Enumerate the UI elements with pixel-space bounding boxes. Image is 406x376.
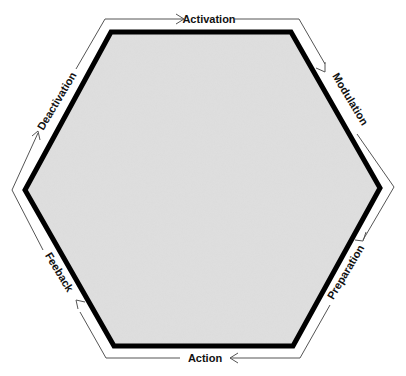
arrow-up-right-icon — [32, 131, 40, 140]
hexagon-texture — [29, 35, 376, 343]
arrow-up-left-icon — [76, 300, 85, 309]
label-activation: Activation — [182, 13, 235, 25]
cycle-diagram: Activation Modulation Preparation Action… — [0, 0, 406, 376]
arrow-down-right-icon — [316, 62, 325, 72]
label-action: Action — [188, 352, 223, 364]
